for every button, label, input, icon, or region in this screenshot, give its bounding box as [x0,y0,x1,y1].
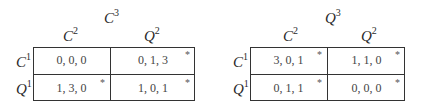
column-header-base: Q [361,28,372,44]
equilibrium-star: * [317,49,322,60]
player3-label-sup: 3 [336,7,341,18]
payoff-value: 0, 0, 0 [57,53,87,68]
row-header-q1: Q1 [16,80,32,97]
row-header-c1: C1 [16,53,31,70]
equilibrium-star: * [395,77,400,88]
equilibrium-star: * [395,49,400,60]
payoff-value: 1, 0, 1 [138,81,168,96]
column-header-sup: 2 [73,25,78,36]
payoff-cell: 1, 1, 0 * [328,47,405,74]
column-header-base: C [63,28,73,44]
column-header-sup: 2 [155,25,160,36]
payoff-value: 0, 1, 1 [274,81,304,96]
row-header-base: C [16,54,26,70]
payoff-cell: 0, 0, 0 * [328,75,405,101]
column-header-q2: Q2 [144,27,160,44]
column-header-c2: C2 [63,27,78,44]
player3-label-base: Q [325,10,336,26]
payoff-value: 0, 0, 0 [352,81,382,96]
row-header-base: Q [16,81,27,97]
equilibrium-star: * [317,77,322,88]
column-header-q2: Q2 [361,27,377,44]
payoff-cell: 0, 1, 3 * [111,47,195,74]
row-header-base: Q [233,81,244,97]
column-header-base: C [283,28,293,44]
player3-label-sup: 3 [114,7,119,18]
column-header-base: Q [144,28,155,44]
player3-label-base: C [104,10,114,26]
payoff-value: 1, 1, 0 [352,53,382,68]
payoff-cell: 0, 1, 1 * [250,75,327,101]
payoff-cell: 0, 0, 0 [33,47,110,74]
payoff-cell: 3, 0, 1 * [250,47,327,74]
payoff-cell: 1, 0, 1 * [111,75,195,101]
row-header-sup: 1 [244,78,249,89]
equilibrium-star: * [185,49,190,60]
column-header-sup: 2 [293,25,298,36]
column-header-c2: C2 [283,27,298,44]
row-header-sup: 1 [26,51,31,62]
payoff-value: 3, 0, 1 [274,53,304,68]
row-header-q1: Q1 [233,80,249,97]
player3-label: C3 [104,9,119,26]
equilibrium-star: * [100,77,105,88]
column-header-sup: 2 [372,25,377,36]
row-header-sup: 1 [243,51,248,62]
row-header-sup: 1 [27,78,32,89]
row-header-c1: C1 [233,53,248,70]
payoff-cell: 1, 3, 0 * [33,75,110,101]
payoff-value: 0, 1, 3 [138,53,168,68]
equilibrium-star: * [185,77,190,88]
row-header-base: C [233,54,243,70]
payoff-value: 1, 3, 0 [57,81,87,96]
player3-label: Q3 [325,9,341,26]
